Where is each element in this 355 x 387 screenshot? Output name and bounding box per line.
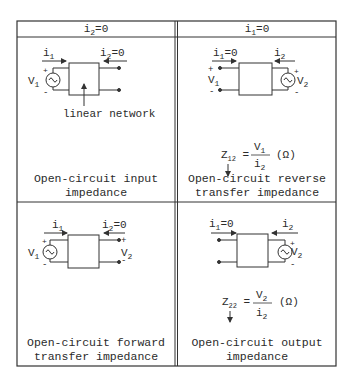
- svg-text:+: +: [121, 236, 126, 246]
- svg-text:Z12 =: Z12 =: [221, 149, 249, 163]
- svg-text:V1: V1: [28, 75, 40, 89]
- svg-text:V1: V1: [254, 141, 266, 155]
- svg-text:-: -: [209, 87, 214, 97]
- svg-text:-: -: [42, 260, 47, 270]
- svg-text:V1: V1: [208, 74, 220, 88]
- svg-text:(Ω): (Ω): [276, 149, 296, 161]
- svg-text:-: -: [43, 88, 48, 98]
- cell-z11-circuit: [42, 61, 127, 106]
- svg-text:V1: V1: [28, 247, 40, 261]
- header-condition-i2-zero: i2=0: [17, 23, 175, 37]
- caption-z12: Open-circuit reverse transfer impedance: [178, 172, 336, 200]
- svg-text:+: +: [42, 237, 47, 246]
- caption-z11: Open-circuit input impedance: [17, 172, 175, 200]
- svg-text:i1: i1: [43, 47, 55, 61]
- svg-text:i2: i2: [254, 158, 266, 172]
- svg-text:linear network: linear network: [63, 108, 156, 120]
- svg-text:i2=0: i2=0: [102, 219, 127, 233]
- svg-text:V2: V2: [121, 247, 133, 261]
- svg-text:Z22 =: Z22 =: [222, 296, 250, 310]
- svg-text:i1=0: i1=0: [209, 218, 234, 232]
- caption-z22: Open-circuit output impedance: [178, 336, 336, 364]
- svg-text:i1=0: i1=0: [213, 47, 238, 61]
- svg-text:V2: V2: [297, 75, 309, 89]
- svg-text:V2: V2: [291, 246, 303, 260]
- two-port-impedance-table: i1 i2=0 + - V1 linear network i1=0 i2: [0, 0, 355, 387]
- svg-text:i2=0: i2=0: [100, 47, 125, 61]
- caption-z21: Open-circuit forward transfer impedance: [17, 336, 175, 364]
- svg-text:i1: i1: [52, 219, 64, 233]
- svg-text:i2: i2: [256, 307, 268, 321]
- svg-text:-: -: [290, 260, 295, 270]
- cell-z22-circuit: [211, 233, 298, 322]
- cell-z21-circuit: [43, 233, 125, 268]
- svg-text:V2: V2: [256, 289, 268, 303]
- svg-text:-: -: [294, 88, 299, 98]
- cell-z12-labels: i1=0 i2 + V1 - + V2 - Z12 = V1 i2 (Ω): [208, 47, 309, 172]
- svg-text:+: +: [43, 66, 48, 75]
- svg-text:i2: i2: [274, 47, 286, 61]
- header-condition-i1-zero: i1=0: [178, 23, 336, 37]
- svg-text:(Ω): (Ω): [279, 296, 299, 308]
- svg-text:i2: i2: [282, 218, 294, 232]
